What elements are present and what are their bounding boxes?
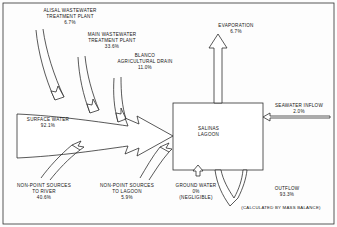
label-ground-water: GROUND WATER 0% (NEGLIGIBLE)	[176, 183, 217, 202]
label-outflow: OUTFLOW 93.3%	[275, 186, 300, 198]
label-seawater-inflow: SEAWATER INFLOW 2.0%	[275, 103, 323, 115]
label-value: 33.6%	[88, 44, 137, 50]
label-alisal-wastewater-treatment-plant: ALISAL WASTEWATER TREATMENT PLANT 6.7%	[43, 8, 96, 27]
label-value: 40.6%	[17, 195, 71, 201]
label-surface-water: SURFACE WATER 92.1%	[27, 117, 69, 129]
label-note: (NEGLIGIBLE)	[176, 195, 217, 201]
label-line-2: LAGOON	[198, 132, 219, 138]
label-non-point-sources-to-lagoon: NON-POINT SOURCES TO LAGOON 5.9%	[100, 183, 154, 202]
label-value: 92.1%	[27, 123, 69, 129]
label-evaporation: EVAPORATION 6.7%	[218, 23, 253, 35]
arrow-alisal-wastewater-treatment-plant	[36, 29, 64, 100]
label-non-point-sources-to-river: NON-POINT SOURCES TO RIVER 40.6%	[17, 183, 71, 202]
label-salinas-lagoon: SALINAS LAGOON	[198, 126, 219, 138]
label-main-wastewater-treatment-plant: MAIN WASTEWATER TREATMENT PLANT 33.6%	[88, 32, 137, 51]
label-value: 2.0%	[275, 109, 323, 115]
label-value: 6.7%	[43, 20, 96, 26]
label-value: 5.9%	[100, 195, 154, 201]
label-value: 11.0%	[117, 65, 172, 71]
label-outflow-note: (CALCULATED BY MASS BALANCE)	[241, 205, 320, 211]
arrow-blanco-agricultural-drain	[114, 77, 126, 122]
arrow-outflow	[215, 170, 247, 206]
arrow-evaporation	[209, 34, 227, 103]
label-blanco-agricultural-drain: BLANCO AGRICULTURAL DRAIN 11.0%	[117, 53, 172, 72]
label-value: 6.7%	[218, 29, 253, 35]
arrow-main-wastewater-treatment-plant	[78, 56, 99, 113]
water-balance-diagram: ALISAL WASTEWATER TREATMENT PLANT 6.7% M…	[0, 0, 337, 227]
label-note: (CALCULATED BY MASS BALANCE)	[241, 205, 320, 211]
label-value: 93.3%	[275, 192, 300, 198]
